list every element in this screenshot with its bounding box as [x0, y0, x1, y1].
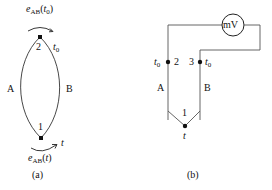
- meter-label: mV: [223, 20, 238, 30]
- junction-1-label-b: 1: [182, 108, 187, 118]
- junction-2-dot: [38, 35, 42, 39]
- conductor-b-label-b: B: [204, 83, 211, 93]
- junction-2-label-b: 2: [174, 57, 179, 67]
- wire-right: [200, 25, 260, 120]
- temperature-t0-label: t0: [53, 42, 59, 55]
- junction-1-dot: [39, 136, 43, 140]
- t0-right-label: t0: [205, 57, 211, 70]
- junction-3-label-b: 3: [189, 57, 194, 67]
- junction-2-label: 2: [36, 42, 41, 52]
- caption-a: (a): [32, 170, 43, 180]
- t0-left-label: t0: [154, 57, 160, 70]
- caption-b: (b): [187, 170, 199, 180]
- temperature-t-label: t: [61, 138, 64, 148]
- emf-top-label: eAB(t0): [26, 4, 53, 17]
- emf-bottom-label: eAB(t): [28, 153, 52, 166]
- conductor-a-label: A: [7, 84, 14, 94]
- temperature-t-label-b: t: [183, 131, 186, 141]
- conductor-a-label-b: A: [157, 83, 164, 93]
- emf-arrow-bottom: [31, 145, 56, 151]
- wire-left-top: [168, 25, 222, 120]
- junction-3-dot-b: [198, 60, 202, 64]
- junction-2-dot-b: [166, 60, 170, 64]
- conductor-b-label: B: [66, 84, 73, 94]
- emf-arrow-top: [28, 28, 52, 32]
- junction-1-dot-b: [183, 124, 187, 128]
- junction-1-label: 1: [38, 122, 43, 132]
